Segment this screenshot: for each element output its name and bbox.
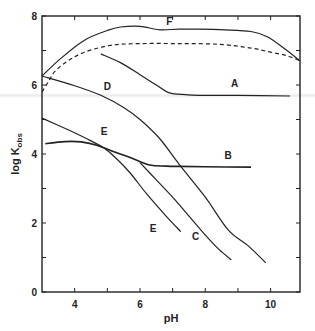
chart-axes: 4681002468pHlog Kobs [9,11,300,324]
curve-e [42,118,181,232]
curve-c [140,163,231,260]
x-tick-label: 6 [137,299,143,310]
curve-b [45,141,251,167]
x-tick-label: 4 [72,299,78,310]
y-tick-label: 0 [31,287,37,298]
curve-f [42,26,300,76]
curve-label-f: F [166,16,172,27]
curve-label-e: E [150,223,157,234]
y-tick-label: 6 [31,80,37,91]
curve-label-a: A [231,78,238,89]
curve-a [101,54,290,96]
chart: 4681002468pHlog Kobs FADEECB [0,0,315,331]
curve-label-d: D [104,81,111,92]
chart-curves [42,26,300,263]
x-tick-label: 8 [203,299,209,310]
y-tick-label: 2 [31,218,37,229]
y-tick-label: 4 [31,149,37,160]
y-tick-label: 8 [31,11,37,22]
x-axis-label: pH [164,312,179,324]
curve-label-b: B [225,150,232,161]
curve-label-c: C [192,231,199,242]
chart-labels: FADEECB [101,16,239,243]
x-tick-label: 10 [265,299,277,310]
curve-label-e: E [101,126,108,137]
y-axis-label: log Kobs [9,133,24,175]
curve-dashed [42,43,300,91]
curve-d [42,76,266,263]
